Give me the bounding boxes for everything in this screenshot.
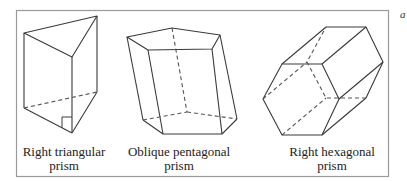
right-angle-marker — [62, 117, 72, 128]
label-line-2: prism — [289, 159, 375, 173]
prism-figure: Right triangular prism Oblique pentagona… — [0, 0, 407, 181]
triangular-prism-drawing — [24, 16, 97, 133]
label-line-1: Right triangular — [23, 145, 106, 159]
label-line-1: Oblique pentagonal — [128, 145, 230, 159]
label-line-2: prism — [23, 159, 106, 173]
hexagonal-prism-drawing — [263, 27, 383, 135]
pentagonal-prism-drawing — [127, 28, 237, 134]
label-line-2: prism — [128, 159, 230, 173]
label-right-hexagonal-prism: Right hexagonal prism — [289, 145, 375, 173]
label-line-1: Right hexagonal — [289, 145, 375, 159]
label-oblique-pentagonal-prism: Oblique pentagonal prism — [128, 145, 230, 173]
label-right-triangular-prism: Right triangular prism — [23, 145, 106, 173]
corner-letter-mark: a — [400, 8, 406, 20]
